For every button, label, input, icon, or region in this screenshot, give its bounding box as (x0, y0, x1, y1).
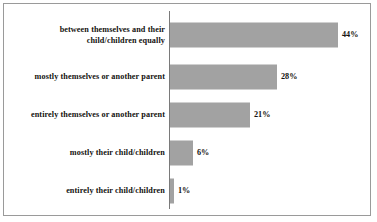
category-label: mostly themselves or another parent (10, 72, 165, 83)
bar-value-label: 28% (281, 73, 297, 81)
category-label: between themselves and their child/child… (10, 25, 165, 46)
bar-row[interactable]: entirely themselves or another parent 21… (4, 96, 370, 134)
bar-row[interactable]: mostly themselves or another parent 28% (4, 58, 370, 96)
bar-row[interactable]: mostly their child/children 6% (4, 134, 370, 172)
bar-row[interactable]: entirely their child/children 1% (4, 172, 370, 210)
bar-chart-plot-area: between themselves and their child/child… (4, 4, 370, 215)
category-label-line1: entirely themselves or another parent (31, 110, 165, 119)
category-label-line1: mostly their child/children (70, 148, 165, 157)
category-label-line1: mostly themselves or another parent (35, 72, 165, 81)
category-label: mostly their child/children (10, 148, 165, 159)
bar-container: 21% (170, 103, 270, 128)
bar-row[interactable]: between themselves and their child/child… (4, 12, 370, 58)
bar-container: 1% (170, 179, 190, 204)
bar[interactable] (170, 103, 250, 128)
category-label: entirely themselves or another parent (10, 110, 165, 121)
bar-container: 44% (170, 23, 358, 48)
bar[interactable] (170, 23, 338, 48)
category-label: entirely their child/children (10, 186, 165, 197)
bar-container: 28% (170, 65, 297, 90)
bar-value-label: 44% (342, 31, 358, 39)
category-label-line1: between themselves and their (60, 25, 165, 34)
bar-container: 6% (170, 141, 209, 166)
bar[interactable] (170, 141, 193, 166)
bar-value-label: 6% (197, 149, 209, 157)
chart-frame: between themselves and their child/child… (3, 3, 371, 216)
category-label-line1: entirely their child/children (66, 186, 165, 195)
bar[interactable] (170, 179, 174, 204)
bar-value-label: 1% (178, 187, 190, 195)
category-label-line2: child/children equally (87, 35, 165, 44)
bar-value-label: 21% (254, 111, 270, 119)
bar[interactable] (170, 65, 277, 90)
